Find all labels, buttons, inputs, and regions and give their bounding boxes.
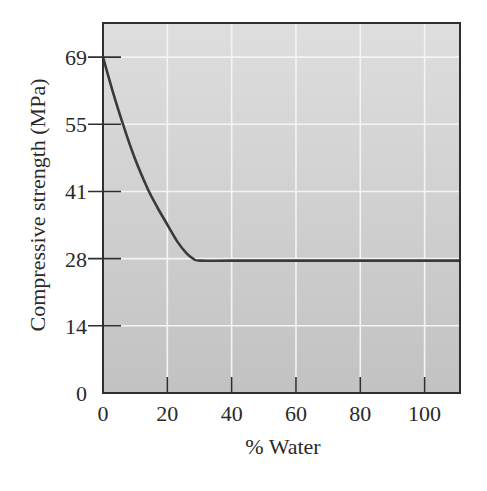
y-tick-label: 0 xyxy=(76,381,87,406)
x-axis-title: % Water xyxy=(245,434,321,459)
y-axis-title: Compressive strength (MPa) xyxy=(25,79,50,332)
x-tick-label: 80 xyxy=(349,401,371,426)
chart: 01428415569 020406080100 Compressive str… xyxy=(0,0,487,491)
y-tick-label: 28 xyxy=(65,247,87,272)
x-tick-label: 0 xyxy=(98,401,109,426)
x-axis-tick-labels: 020406080100 xyxy=(98,401,442,426)
y-tick-label: 69 xyxy=(65,45,87,70)
x-tick-label: 100 xyxy=(408,401,441,426)
y-tick-label: 41 xyxy=(65,179,87,204)
x-tick-label: 20 xyxy=(156,401,178,426)
y-tick-label: 55 xyxy=(65,112,87,137)
y-axis-tick-labels: 01428415569 xyxy=(65,45,87,406)
x-tick-label: 40 xyxy=(221,401,243,426)
y-tick-label: 14 xyxy=(65,314,87,339)
x-tick-label: 60 xyxy=(285,401,307,426)
